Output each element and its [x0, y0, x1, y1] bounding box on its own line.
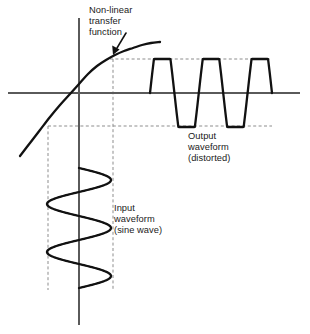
- label-transfer-function: Non-linear transfer function: [89, 5, 132, 37]
- label-output-line-2: waveform: [188, 142, 230, 153]
- label-output-line-1: Output: [188, 131, 230, 142]
- label-input-line-1: Input: [114, 203, 162, 214]
- label-output-line-3: (distorted): [188, 153, 230, 164]
- label-transfer-line-1: Non-linear: [89, 5, 132, 16]
- label-input-waveform: Input waveform (sine wave): [114, 203, 162, 235]
- label-transfer-line-2: transfer: [89, 16, 132, 27]
- diagram-canvas: [0, 0, 310, 334]
- transfer-function-diagram: Non-linear transfer function Output wave…: [0, 0, 310, 334]
- label-transfer-line-3: function: [89, 27, 132, 38]
- label-output-waveform: Output waveform (distorted): [188, 131, 230, 163]
- label-input-line-3: (sine wave): [114, 225, 162, 236]
- label-input-line-2: waveform: [114, 214, 162, 225]
